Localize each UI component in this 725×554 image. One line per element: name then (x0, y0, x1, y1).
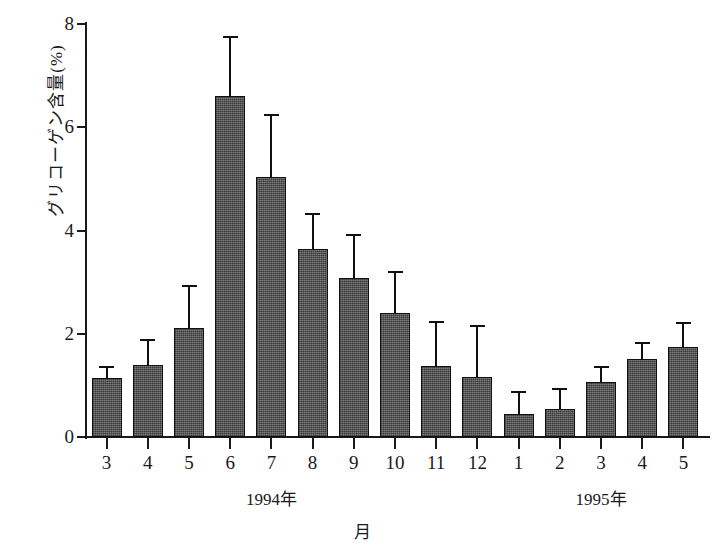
bar-group[interactable] (545, 24, 575, 437)
y-axis-tick (77, 230, 86, 232)
x-axis-title: 月 (0, 518, 725, 543)
error-bar-cap (182, 285, 197, 287)
bar[interactable] (133, 365, 163, 437)
bar[interactable] (298, 249, 328, 437)
bar[interactable] (545, 409, 575, 437)
error-bar-cap (594, 366, 609, 368)
x-axis-tick-label: 6 (210, 452, 250, 474)
error-bar-cap (429, 321, 444, 323)
y-axis-tick-label: 8 (46, 14, 74, 33)
error-bar-cap (99, 366, 114, 368)
bar[interactable] (504, 414, 534, 437)
bar-group[interactable] (174, 24, 204, 437)
error-bar-cap (552, 388, 567, 390)
x-axis-tick-label: 8 (293, 452, 333, 474)
x-axis-tick-label: 3 (581, 452, 621, 474)
error-bar-cap (223, 36, 238, 38)
x-axis-tick-label: 7 (251, 452, 291, 474)
bar-group[interactable] (215, 24, 245, 437)
error-bar-stem (559, 389, 561, 409)
bar-group[interactable] (133, 24, 163, 437)
x-axis-tick-label: 4 (128, 452, 168, 474)
error-bar-stem (476, 326, 478, 377)
bar[interactable] (380, 313, 410, 437)
error-bar-stem (435, 322, 437, 365)
x-axis-tick (641, 438, 643, 449)
error-bar-stem (106, 367, 108, 377)
x-axis-tick (435, 438, 437, 449)
glycogen-content-bar-chart: グリコーゲン含量(%) 02468 3456789101112123451994… (0, 0, 725, 554)
x-axis-tick-label: 10 (375, 452, 415, 474)
x-axis-tick-label: 12 (457, 452, 497, 474)
y-axis-tick-label: 0 (46, 427, 74, 446)
x-axis-tick-label: 11 (416, 452, 456, 474)
bar[interactable] (339, 278, 369, 437)
error-bar-stem (682, 323, 684, 346)
bar-group[interactable] (504, 24, 534, 437)
error-bar-stem (188, 286, 190, 328)
error-bar-stem (641, 343, 643, 358)
y-axis-tick-labels: 02468 (38, 0, 74, 554)
bar[interactable] (586, 382, 616, 437)
y-axis-tick (77, 23, 86, 25)
error-bar-cap (511, 391, 526, 393)
bar[interactable] (668, 347, 698, 437)
x-axis-tick (188, 438, 190, 449)
x-axis-tick (518, 438, 520, 449)
y-axis-tick (77, 126, 86, 128)
error-bar-cap (264, 114, 279, 116)
bar-group[interactable] (462, 24, 492, 437)
x-axis-tick (270, 438, 272, 449)
error-bar-cap (346, 234, 361, 236)
bar[interactable] (92, 378, 122, 437)
error-bar-cap (635, 342, 650, 344)
bar-group[interactable] (298, 24, 328, 437)
error-bar-stem (229, 37, 231, 96)
x-axis-tick-label: 3 (87, 452, 127, 474)
bar-group[interactable] (339, 24, 369, 437)
x-axis-tick-label: 5 (169, 452, 209, 474)
bar-group[interactable] (668, 24, 698, 437)
x-axis-tick (147, 438, 149, 449)
bar[interactable] (174, 328, 204, 437)
error-bar-cap (470, 325, 485, 327)
bar-group[interactable] (421, 24, 451, 437)
x-axis-tick (312, 438, 314, 449)
bar-group[interactable] (380, 24, 410, 437)
bar[interactable] (215, 96, 245, 437)
bar[interactable] (256, 177, 286, 437)
y-axis-tick (77, 333, 86, 335)
bar-group[interactable] (256, 24, 286, 437)
error-bar-cap (388, 271, 403, 273)
x-axis-tick-label: 9 (334, 452, 374, 474)
error-bar-stem (353, 235, 355, 278)
error-bar-stem (270, 115, 272, 177)
bar[interactable] (462, 377, 492, 437)
x-axis-tick (476, 438, 478, 449)
x-axis-tick-label: 5 (663, 452, 703, 474)
x-axis-group-label: 1995年 (531, 485, 671, 510)
plot-area (86, 24, 704, 437)
y-axis-tick-label: 2 (46, 324, 74, 343)
y-axis-tick-label: 6 (46, 117, 74, 136)
error-bar-stem (394, 272, 396, 313)
y-axis-tick-label: 4 (46, 221, 74, 240)
error-bar-stem (518, 392, 520, 415)
error-bar-stem (600, 367, 602, 382)
y-axis-tick (77, 436, 86, 438)
x-axis-tick (229, 438, 231, 449)
bar-group[interactable] (92, 24, 122, 437)
bar-group[interactable] (586, 24, 616, 437)
x-axis-tick (600, 438, 602, 449)
x-axis-tick-label: 4 (622, 452, 662, 474)
x-axis-tick (353, 438, 355, 449)
error-bar-stem (147, 340, 149, 364)
x-axis-tick (559, 438, 561, 449)
error-bar-cap (305, 213, 320, 215)
bar[interactable] (627, 359, 657, 437)
error-bar-cap (676, 322, 691, 324)
x-axis-tick (682, 438, 684, 449)
bar-group[interactable] (627, 24, 657, 437)
x-axis-tick-label: 2 (540, 452, 580, 474)
bar[interactable] (421, 366, 451, 437)
